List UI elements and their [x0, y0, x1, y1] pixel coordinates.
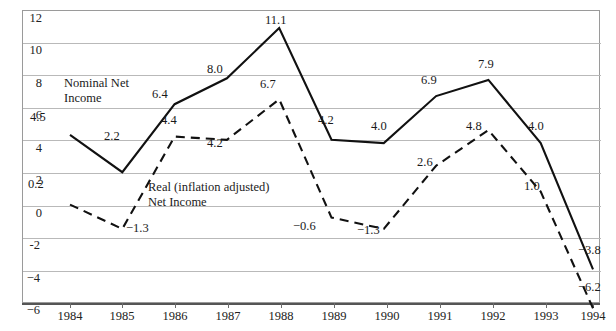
nominal-annotation-line1: Nominal Net [64, 76, 129, 91]
real-label-1993: 1.0 [524, 180, 540, 193]
nominal-label-1994: −3.8 [578, 244, 601, 257]
real-annotation-line1: Real (inflation adjusted) [148, 180, 270, 195]
real-label-1992: 4.8 [466, 120, 482, 133]
real-annotation-line2: Net Income [148, 195, 270, 210]
real-label-1989: −0.6 [293, 220, 316, 233]
nominal-label-1991: 6.9 [421, 74, 437, 87]
nominal-label-1992: 7.9 [478, 58, 494, 71]
real-label-1991: 2.6 [417, 156, 433, 169]
nominal-label-1987: 8.0 [207, 63, 223, 76]
nominal-label-1985: 2.2 [104, 130, 120, 143]
nominal-label-1993: 4.0 [528, 120, 544, 133]
real-label-1986: 4.4 [161, 114, 177, 127]
real-label-1994: −6.2 [578, 281, 601, 294]
nominal-annotation-line2: Income [64, 91, 129, 106]
nominal-label-1989: 4.2 [318, 114, 334, 127]
nominal-label-1988: 11.1 [265, 14, 286, 27]
real-label-1984: 0.2 [28, 178, 44, 191]
real-series-annotation: Real (inflation adjusted) Net Income [148, 180, 270, 209]
nominal-label-1990: 4.0 [371, 120, 387, 133]
series-layer [0, 0, 616, 331]
real-label-1988: 6.7 [260, 78, 276, 91]
real-label-1987: 4.2 [207, 137, 223, 150]
nominal-label-1984: 4.5 [30, 111, 46, 124]
real-label-1985: −1.3 [126, 222, 149, 235]
chart-figure: 12 10 8 6 4 2 0 -2 −4 −6 1984 1985 1986 … [0, 0, 616, 331]
nominal-label-1986: 6.4 [152, 88, 168, 101]
real-label-1990: −1.3 [357, 224, 380, 237]
nominal-series-annotation: Nominal Net Income [64, 76, 129, 105]
